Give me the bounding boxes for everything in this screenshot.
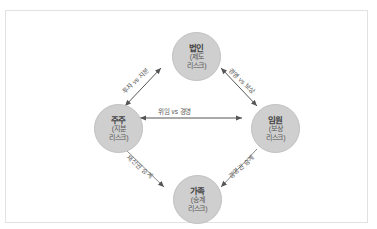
node-family-title: 가족 xyxy=(190,186,206,196)
node-shareholder-sub1: (지분 xyxy=(112,125,126,134)
edge-label-delegate-mgmt: 위임 vs 경영 xyxy=(158,108,191,116)
node-exec-sub1: (보상 xyxy=(269,125,283,134)
node-family-sub1: (승계 xyxy=(191,196,205,205)
node-exec-title: 임원 xyxy=(268,115,284,125)
node-corp-title: 법인 xyxy=(189,43,205,53)
node-corp[interactable]: 법인 (제도 리스크) xyxy=(172,32,221,81)
node-shareholder-title: 주주 xyxy=(111,115,127,125)
diagram-root: 법인 (제도 리스크) 주주 (지분 리스크) 임원 (보상 리스크) 가족 (… xyxy=(0,0,377,229)
node-family-sub2: 리스크) xyxy=(188,205,208,214)
node-shareholder-sub2: 리스크) xyxy=(109,134,129,143)
figure-frame: 법인 (제도 리스크) 주주 (지분 리스크) 임원 (보상 리스크) 가족 (… xyxy=(5,10,368,223)
node-family[interactable]: 가족 (승계 리스크) xyxy=(173,175,222,224)
diagram-canvas: 법인 (제도 리스크) 주주 (지분 리스크) 임원 (보상 리스크) 가족 (… xyxy=(6,11,367,222)
node-shareholder[interactable]: 주주 (지분 리스크) xyxy=(94,104,143,153)
node-corp-sub2: 리스크) xyxy=(187,62,207,71)
clipped-top-caption xyxy=(4,0,144,7)
node-corp-sub1: (제도 xyxy=(190,53,204,62)
node-exec[interactable]: 임원 (보상 리스크) xyxy=(251,104,300,153)
node-exec-sub2: 리스크) xyxy=(266,134,286,143)
